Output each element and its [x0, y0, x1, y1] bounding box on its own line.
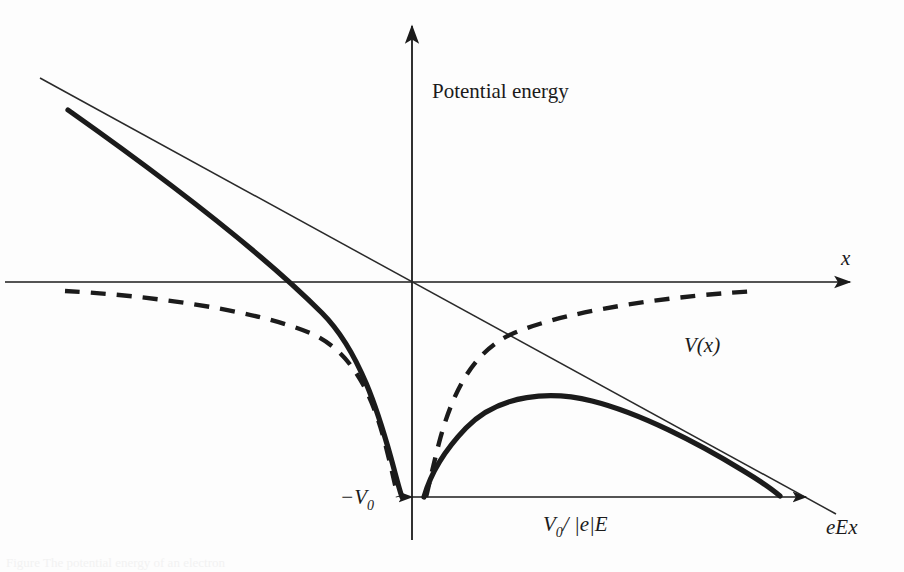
total-potential-right-branch [424, 396, 780, 497]
axes-group [5, 26, 850, 540]
total-potential-left-branch [68, 110, 402, 497]
barrier-width-label-rest: / |e|E [562, 512, 608, 536]
figure-container: Potential energy x V(x) −V0 V0/ |e|E eEx… [0, 0, 904, 572]
vx-curve-label: V(x) [684, 333, 720, 357]
linear-term-label: eEx [826, 515, 858, 539]
well-depth-label-main: −V [340, 485, 369, 509]
x-axis-label: x [840, 246, 851, 270]
barrier-width-label: V0/ |e|E [543, 512, 608, 540]
vx-dashed-right-branch [426, 291, 757, 497]
coulomb-potential-dashed-curve-group [65, 291, 757, 497]
well-depth-label: −V0 [340, 485, 374, 513]
potential-energy-axis-title: Potential energy [432, 79, 569, 103]
barrier-width-label-subscript: 0 [556, 525, 563, 540]
vx-curve-label-text: V(x) [684, 333, 720, 357]
potential-energy-figure: Potential energy x V(x) −V0 V0/ |e|E eEx [0, 0, 904, 572]
vx-dashed-left-branch [65, 291, 398, 497]
cropped-caption: Figure The potential energy of an electr… [6, 556, 566, 570]
well-depth-label-subscript: 0 [367, 498, 374, 513]
